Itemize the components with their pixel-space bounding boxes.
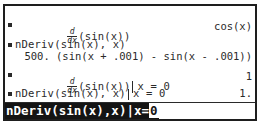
history-result: 1	[246, 70, 252, 82]
bullet-icon	[8, 73, 12, 77]
history-result: 1.	[239, 87, 252, 99]
entry-line-text[interactable]: nDeriv(sin(x),x)|x=0	[5, 103, 159, 119]
history-entry-4[interactable]: nDeriv(sin(x), x)x = 0 1.	[5, 87, 255, 101]
history-entry-3[interactable]: ddx(sin(x))x = 0 1	[5, 64, 255, 86]
condition: x = 0	[133, 87, 166, 99]
cursor: 0	[149, 103, 159, 118]
expression-text: nDeriv(sin(x), x)	[15, 87, 126, 99]
history-entry-2[interactable]: nDeriv(sin(x), x) 500. (sin(x + .001) - …	[5, 38, 255, 64]
bullet-icon	[8, 43, 12, 47]
history-expression: nDeriv(sin(x), x)	[15, 38, 126, 50]
bullet-icon	[8, 23, 12, 27]
with-operator-bar	[128, 89, 129, 100]
entry-text: nDeriv(sin(x),x)|x=	[6, 103, 149, 118]
history-area[interactable]: ddx(sin(x)) cos(x) nDeriv(sin(x), x) 500…	[5, 6, 255, 102]
history-expression: nDeriv(sin(x), x)x = 0	[15, 87, 165, 100]
entry-line-input[interactable]: nDeriv(sin(x),x)|x=0	[5, 103, 255, 119]
history-result: 500. (sin(x + .001) - sin(x - .001))	[24, 50, 252, 62]
history-entry-1[interactable]: ddx(sin(x)) cos(x)	[5, 14, 255, 36]
bullet-icon	[8, 92, 12, 96]
history-result: cos(x)	[214, 20, 252, 32]
calculator-home-screen: ddx(sin(x)) cos(x) nDeriv(sin(x), x) 500…	[3, 4, 257, 121]
